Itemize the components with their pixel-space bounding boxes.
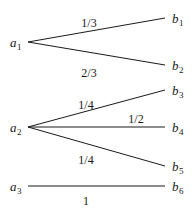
- node-a1-base: a: [10, 35, 17, 50]
- node-a2-subscript: 2: [17, 127, 22, 137]
- node-b1-base: b: [172, 11, 179, 26]
- node-b4-base: b: [172, 120, 179, 135]
- edge-weight-a3-b6: 1: [83, 195, 89, 207]
- edge-a2-b5: [28, 127, 165, 166]
- node-label-b2: b2: [172, 59, 183, 72]
- node-b4-subscript: 4: [179, 127, 184, 137]
- node-label-b6: b6: [172, 180, 183, 193]
- node-label-a1: a1: [10, 36, 21, 49]
- node-label-a2: a2: [10, 121, 21, 134]
- node-a3-base: a: [10, 179, 17, 194]
- edge-weight-a1-b2: 2/3: [81, 67, 97, 79]
- node-label-b3: b3: [172, 84, 183, 97]
- node-b2-base: b: [172, 58, 179, 73]
- node-label-a3: a3: [10, 180, 21, 193]
- edge-weight-a2-b3: 1/4: [78, 99, 94, 111]
- node-a2-base: a: [10, 120, 17, 135]
- node-b3-base: b: [172, 83, 179, 98]
- edge-weight-a1-b1: 1/3: [81, 17, 97, 29]
- node-b5-base: b: [172, 159, 179, 174]
- node-label-b4: b4: [172, 121, 183, 134]
- node-b6-subscript: 6: [179, 186, 184, 196]
- bipartite-diagram: a1 a2 a3 b1 b2 b3 b4 b5 b6 1/3 2/3 1/4 1…: [0, 0, 194, 214]
- node-label-b5: b5: [172, 160, 183, 173]
- node-label-b1: b1: [172, 12, 183, 25]
- node-b2-subscript: 2: [179, 65, 184, 75]
- edge-weight-a2-b4: 1/2: [128, 113, 144, 125]
- node-a3-subscript: 3: [17, 186, 22, 196]
- node-b3-subscript: 3: [179, 90, 184, 100]
- node-b1-subscript: 1: [179, 18, 184, 28]
- node-b5-subscript: 5: [179, 166, 184, 176]
- edge-a1-b2: [28, 42, 165, 65]
- edge-a2-b3: [28, 90, 165, 127]
- node-b6-base: b: [172, 179, 179, 194]
- node-a1-subscript: 1: [17, 42, 22, 52]
- graph-edges-layer: [0, 0, 194, 214]
- edge-weight-a2-b5: 1/4: [78, 154, 94, 166]
